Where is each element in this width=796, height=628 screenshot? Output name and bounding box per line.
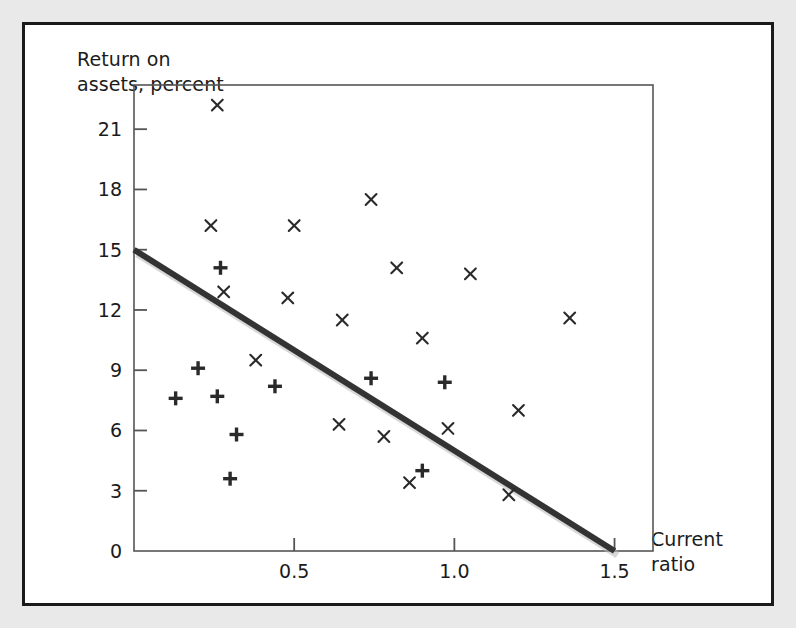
data-point-cross [465, 268, 476, 279]
data-point-cross [337, 315, 348, 326]
data-point-plus [415, 464, 429, 478]
scatter-plot-canvas [25, 25, 771, 603]
y-tick-label-12: 12 [98, 299, 122, 321]
data-point-cross [378, 431, 389, 442]
fitted-regression-line [134, 250, 618, 555]
y-tick-label-6: 6 [110, 419, 122, 441]
data-point-plus [223, 472, 237, 486]
x-tick-label-1.0: 1.0 [439, 560, 469, 582]
data-point-plus [438, 375, 452, 389]
axis-frame [134, 85, 653, 551]
data-point-cross [417, 333, 428, 344]
data-point-cross [218, 286, 229, 297]
data-point-plus [210, 389, 224, 403]
data-point-cross [503, 489, 514, 500]
x-tick-label-0.5: 0.5 [279, 560, 309, 582]
data-point-cross [205, 220, 216, 231]
y-tick-label-9: 9 [110, 359, 122, 381]
data-point-plus [364, 371, 378, 385]
y-tick-label-3: 3 [110, 480, 122, 502]
data-point-cross [334, 419, 345, 430]
axis-ticks [134, 129, 615, 551]
data-point-plus [268, 379, 282, 393]
data-point-cross [564, 313, 575, 324]
y-tick-label-21: 21 [98, 118, 122, 140]
data-point-cross [404, 477, 415, 488]
data-point-cross [443, 423, 454, 434]
data-point-plus [230, 428, 244, 442]
data-point-plus [169, 391, 183, 405]
data-point-cross [513, 405, 524, 416]
data-point-cross [366, 194, 377, 205]
y-tick-label-15: 15 [98, 239, 122, 261]
x-tick-label-1.5: 1.5 [599, 560, 629, 582]
data-point-cross [282, 293, 293, 304]
y-tick-label-18: 18 [98, 178, 122, 200]
y-tick-label-0: 0 [110, 540, 122, 562]
data-point-cross [250, 355, 261, 366]
figure-frame: Return on assets, percent Current ratio … [22, 22, 774, 606]
data-point-cross [212, 100, 223, 111]
data-point-plus [191, 361, 205, 375]
data-point-cross [391, 262, 402, 273]
data-point-cross [289, 220, 300, 231]
plot-stage: Return on assets, percent Current ratio … [25, 25, 771, 603]
data-markers [169, 100, 575, 500]
data-point-plus [214, 261, 228, 275]
